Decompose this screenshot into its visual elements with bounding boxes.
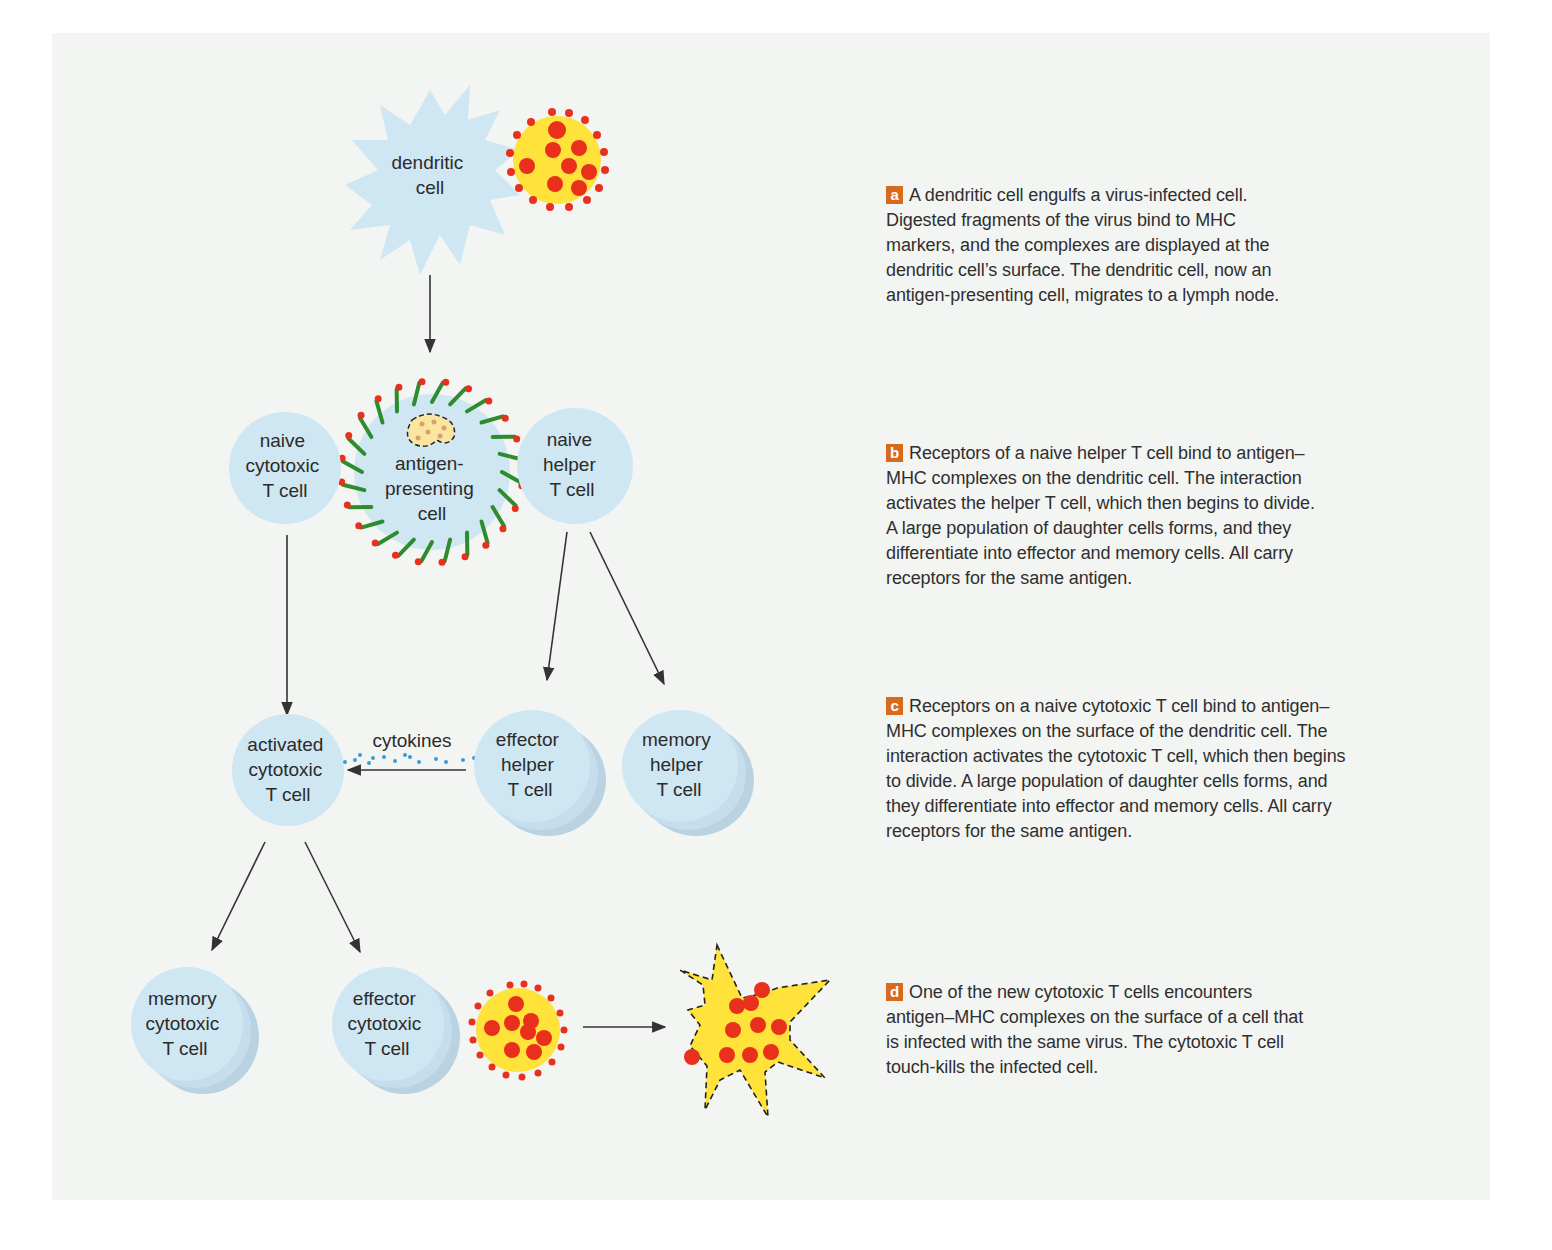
arrow-naive-helper-to-effector xyxy=(547,532,567,680)
naive-helper-t-cell: naive helper T cell xyxy=(517,408,633,524)
antigen-presenting-cell: antigen- presenting cell xyxy=(338,378,526,566)
apc-label: cell xyxy=(418,503,447,524)
apc-label: presenting xyxy=(385,478,474,499)
apc-label: antigen- xyxy=(395,453,464,474)
infected-target-cell xyxy=(469,981,568,1081)
immune-response-diagram: dendritic cell xyxy=(0,0,1552,1250)
activated-cytotoxic-t-cell: activated cytotoxic T cell xyxy=(232,714,344,826)
cytokine-dots xyxy=(343,753,484,765)
step-c-badge: c xyxy=(886,697,903,715)
effector-cytotoxic-t-cell: effector cytotoxic T cell xyxy=(332,967,460,1094)
dendritic-label: dendritic xyxy=(391,152,463,173)
arrow-naive-helper-to-memory xyxy=(590,532,664,684)
cytokines-label: cytokines xyxy=(372,730,451,751)
step-b-description: bReceptors of a naive helper T cell bind… xyxy=(886,441,1315,591)
step-d-description: dOne of the new cytotoxic T cells encoun… xyxy=(886,980,1303,1080)
step-a-badge: a xyxy=(886,186,903,204)
virus-infected-cell xyxy=(506,108,609,211)
memory-helper-t-cell: memory helper T cell xyxy=(622,710,754,836)
step-b-badge: b xyxy=(886,444,903,462)
memory-cytotoxic-t-cell: memory cytotoxic T cell xyxy=(131,967,259,1094)
svg-text:naive helper T cel: naive helper T cell xyxy=(543,429,601,500)
step-d-badge: d xyxy=(886,983,903,1001)
cytokines: cytokines xyxy=(343,730,484,770)
arrow-activated-to-effector-cytotoxic xyxy=(305,842,360,952)
effector-helper-t-cell: effector helper T cell xyxy=(474,710,606,836)
step-c-description: cReceptors on a naive cytotoxic T cell b… xyxy=(886,694,1345,844)
dendritic-cell: dendritic cell xyxy=(345,85,520,275)
killed-infected-cell xyxy=(680,945,830,1117)
step-a-description: aA dendritic cell engulfs a virus-infect… xyxy=(886,183,1279,308)
arrow-activated-to-memory-cytotoxic xyxy=(212,842,265,950)
dendritic-label: cell xyxy=(416,177,445,198)
naive-cytotoxic-t-cell: naive cytotoxic T cell xyxy=(229,412,341,524)
